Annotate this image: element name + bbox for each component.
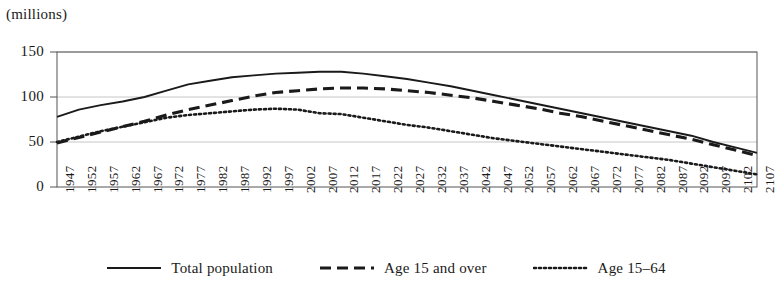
x-tick-label: 2022 — [390, 165, 406, 193]
x-tick-label: 2067 — [587, 165, 603, 193]
x-tick-label: 2002 — [303, 165, 319, 193]
x-tick-label: 2017 — [368, 165, 384, 193]
x-tick-label: 2092 — [696, 165, 712, 193]
x-tick-label: 1957 — [106, 165, 122, 193]
legend-item-age_15_and_over: Age 15 and over — [319, 260, 487, 277]
x-tick-label: 2082 — [653, 165, 669, 193]
series-line-solid — [57, 72, 757, 153]
x-tick-label: 2052 — [521, 165, 537, 193]
x-tick-label: 2057 — [543, 165, 559, 193]
x-tick-label: 2027 — [412, 165, 428, 193]
legend-label: Age 15 and over — [384, 260, 487, 277]
legend-swatch-solid — [106, 262, 162, 274]
x-tick-label: 2087 — [675, 165, 691, 193]
legend-label: Total population — [171, 260, 273, 277]
x-tick-label: 2102 — [740, 165, 756, 193]
x-tick-label: 1997 — [281, 165, 297, 193]
legend-item-age_15_64: Age 15–64 — [533, 260, 666, 277]
y-tick-label: 100 — [0, 88, 44, 105]
x-tick-label: 2042 — [478, 165, 494, 193]
x-tick-label: 1952 — [84, 165, 100, 193]
legend-swatch-dotted — [533, 262, 589, 274]
x-tick-label: 2007 — [325, 165, 341, 193]
x-tick-label: 2107 — [762, 165, 778, 193]
legend-swatch-dashed — [319, 262, 375, 274]
x-tick-label: 2072 — [609, 165, 625, 193]
x-tick-label: 2077 — [631, 165, 647, 193]
x-tick-label: 1977 — [193, 165, 209, 193]
y-tick-label: 0 — [0, 178, 44, 195]
legend-label: Age 15–64 — [598, 260, 666, 277]
x-tick-label: 2037 — [456, 165, 472, 193]
x-tick-label: 1972 — [171, 165, 187, 193]
x-tick-label: 1992 — [259, 165, 275, 193]
y-tick-label: 150 — [0, 43, 44, 60]
x-tick-label: 1967 — [150, 165, 166, 193]
x-tick-label: 2012 — [346, 165, 362, 193]
x-tick-label: 2062 — [565, 165, 581, 193]
x-tick-label: 1982 — [215, 165, 231, 193]
y-tick-label: 50 — [0, 133, 44, 150]
x-tick-label: 1987 — [237, 165, 253, 193]
x-tick-label: 2097 — [718, 165, 734, 193]
legend-item-total_population: Total population — [106, 260, 273, 277]
x-tick-label: 1962 — [128, 165, 144, 193]
x-tick-label: 1947 — [62, 165, 78, 193]
chart-legend: Total populationAge 15 and overAge 15–64 — [0, 252, 772, 284]
x-tick-label: 2047 — [500, 165, 516, 193]
series-line-dashed — [57, 88, 757, 156]
x-tick-label: 2032 — [434, 165, 450, 193]
